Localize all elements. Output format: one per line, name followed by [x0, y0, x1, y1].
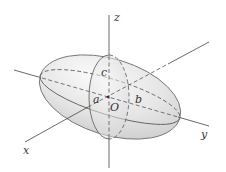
x-axis-label: x [23, 144, 30, 157]
origin-point [107, 96, 110, 99]
x-axis-negative [168, 42, 209, 64]
a-label: a [93, 93, 100, 106]
origin-label: O [110, 101, 119, 114]
b-label: b [135, 93, 142, 106]
y-axis-positive [178, 117, 209, 126]
y-axis-negative [14, 70, 42, 78]
z-axis-label: z [113, 11, 120, 24]
y-axis-label: y [200, 128, 208, 141]
ellipsoid-diagram: z y x c a b O [0, 0, 226, 172]
c-label: c [101, 66, 107, 79]
